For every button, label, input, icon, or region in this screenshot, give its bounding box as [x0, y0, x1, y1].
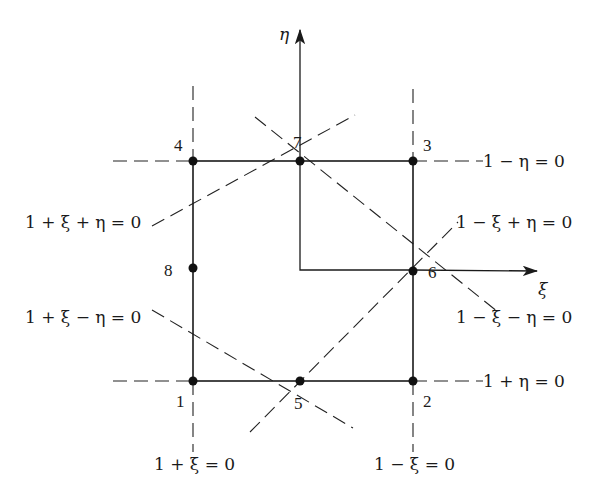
- node-2: [409, 377, 418, 386]
- eta-axis-label: η: [279, 24, 290, 44]
- node-label-8: 8: [164, 261, 173, 280]
- eq-right: 1 − ξ = 0: [374, 454, 455, 474]
- eq-diag-upper-right: 1 − ξ + η = 0: [456, 212, 572, 232]
- node-8: [189, 264, 198, 273]
- node-label-6: 6: [428, 263, 437, 282]
- eq-bottom: 1 + η = 0: [483, 371, 565, 391]
- nodes: [189, 157, 418, 386]
- eq-left: 1 + ξ = 0: [154, 454, 235, 474]
- node-7: [296, 157, 305, 166]
- xi-axis-label: ξ: [538, 279, 549, 299]
- node-label-4: 4: [174, 136, 183, 155]
- node-5: [296, 377, 305, 386]
- origin-axis-segment: [300, 161, 413, 270]
- diagonal-lines: [152, 115, 498, 432]
- node-1: [189, 377, 198, 386]
- node-4: [189, 157, 198, 166]
- node-3: [409, 157, 418, 166]
- element-boundary: [193, 161, 413, 381]
- node-label-3: 3: [423, 136, 432, 155]
- eq-diag-lower-left: 1 + ξ − η = 0: [25, 307, 141, 327]
- node-label-1: 1: [176, 392, 185, 411]
- node-label-7: 7: [293, 133, 302, 152]
- node-label-2: 2: [423, 392, 432, 411]
- serendipity-element-diagram: 1 2 3 4 5 6 7 8 η ξ 1 − η = 0 1 + η = 0 …: [0, 0, 592, 488]
- node-6: [409, 267, 418, 276]
- node-label-5: 5: [294, 394, 303, 413]
- eq-diag-lower-right: 1 − ξ − η = 0: [456, 307, 572, 327]
- eq-top: 1 − η = 0: [483, 151, 565, 171]
- eq-diag-upper-left: 1 + ξ + η = 0: [25, 212, 141, 232]
